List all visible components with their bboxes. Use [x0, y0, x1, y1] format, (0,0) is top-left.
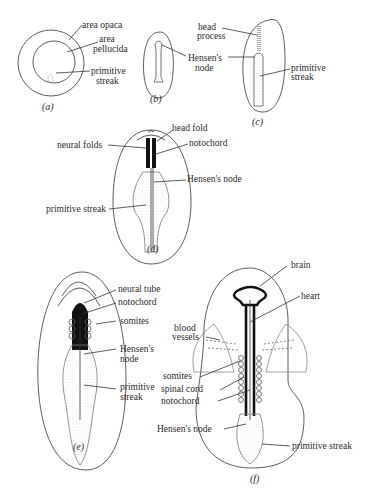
caption-f: (f) — [250, 473, 259, 484]
label-head-fold: head fold — [172, 124, 208, 134]
label-neural-tube: neural tube — [118, 285, 160, 295]
label-spinal-cord: spinal cord — [161, 385, 203, 395]
label-neural-folds: neural folds — [57, 141, 102, 151]
panel-a-drawing — [18, 25, 98, 96]
label-area-pellucida-2: pellucida — [93, 45, 128, 55]
caption-e: (e) — [73, 441, 84, 452]
label-head-process-2: process — [197, 32, 226, 42]
label-primitive-streak-d: primitive streak — [46, 205, 106, 215]
caption-a: (a) — [42, 101, 54, 112]
label-somites-f: somites — [163, 372, 192, 382]
embryo-diagram — [0, 0, 374, 496]
label-primitive-streak-e-2: streak — [120, 393, 143, 403]
panel-f-drawing — [193, 266, 307, 468]
panel-c-drawing — [222, 19, 290, 112]
label-primitive-streak-a-2: streak — [96, 77, 119, 87]
label-hensens-node-f: Hensen's node — [157, 425, 212, 435]
label-brain: brain — [291, 261, 311, 271]
label-notochord-f: notochord — [161, 397, 200, 407]
label-hensens-node-d: Hensen's node — [187, 175, 242, 185]
label-notochord-d: notochord — [189, 139, 228, 149]
label-primitive-streak-f: primitive streak — [292, 442, 352, 452]
caption-c: (c) — [252, 116, 263, 127]
label-area-opaca: area opaca — [82, 21, 122, 31]
caption-b: (b) — [150, 93, 162, 104]
panel-b-drawing — [144, 32, 186, 98]
label-hensens-node-e-2: node — [120, 355, 138, 365]
label-somites-e: somites — [120, 317, 149, 327]
label-heart: heart — [301, 292, 320, 302]
label-hensens-node-b-2: node — [195, 64, 213, 74]
caption-d: (d) — [147, 243, 159, 254]
label-primitive-streak-c-2: streak — [291, 73, 314, 83]
label-notochord-e: notochord — [118, 298, 157, 308]
label-blood-vessels-2: vessels — [172, 333, 199, 343]
